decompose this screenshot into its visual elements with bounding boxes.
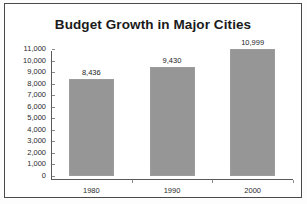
y-axis-tick-label: 11,000 — [24, 44, 46, 53]
x-axis-tick-mark — [293, 180, 294, 183]
y-axis-tick-label: 7,000 — [27, 90, 46, 99]
x-axis-category-label: 1980 — [61, 186, 121, 195]
y-axis-tick-label: 4,000 — [27, 125, 46, 134]
y-axis-tick-label: 0 — [42, 171, 46, 180]
y-axis-tick-mark — [52, 107, 55, 108]
bar[interactable] — [150, 67, 195, 176]
y-axis-tick-mark — [52, 49, 55, 50]
y-axis-tick-label: 5,000 — [27, 113, 46, 122]
bar-value-label: 8,436 — [61, 68, 121, 77]
y-axis-tick-mark — [52, 118, 55, 119]
x-axis-category-label: 2000 — [223, 186, 283, 195]
y-axis-tick-mark — [52, 95, 55, 96]
y-axis-tick-label: 8,000 — [27, 79, 46, 88]
y-axis-line — [51, 51, 52, 180]
chart-title: Budget Growth in Major Cities — [5, 17, 301, 32]
y-axis-tick-mark — [52, 141, 55, 142]
bar-value-label: 10,999 — [223, 38, 283, 47]
y-axis-tick-mark — [52, 153, 55, 154]
bar-value-label: 9,430 — [142, 56, 202, 65]
y-axis-tick-mark — [52, 164, 55, 165]
y-axis-tick-label: 9,000 — [27, 67, 46, 76]
bar[interactable] — [69, 79, 114, 176]
y-axis-tick-label: 2,000 — [27, 148, 46, 157]
screenshot-root: Budget Growth in Major Cities 11,00010,0… — [0, 0, 307, 204]
y-axis-tick-mark — [52, 84, 55, 85]
y-axis-tick-mark — [52, 176, 55, 177]
y-axis-tick-label: 6,000 — [27, 102, 46, 111]
x-axis-tick-mark — [212, 180, 213, 183]
y-axis-tick-label: 1,000 — [27, 159, 46, 168]
x-axis-category-label: 1990 — [142, 186, 202, 195]
y-axis-tick-label: 10,000 — [23, 56, 46, 65]
bar[interactable] — [230, 49, 275, 176]
y-axis-tick-mark — [52, 130, 55, 131]
x-axis-line — [51, 179, 293, 180]
y-axis-tick-mark — [52, 61, 55, 62]
y-axis-tick-mark — [52, 72, 55, 73]
y-axis-tick-label: 3,000 — [27, 136, 46, 145]
x-axis-tick-mark — [132, 180, 133, 183]
chart-frame: Budget Growth in Major Cities 11,00010,0… — [4, 3, 302, 198]
